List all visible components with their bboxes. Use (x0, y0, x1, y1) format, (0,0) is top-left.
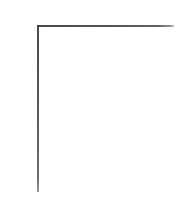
plot-area (39, 27, 176, 193)
plot-frame (0, 0, 192, 198)
chart-canvas (0, 0, 192, 198)
